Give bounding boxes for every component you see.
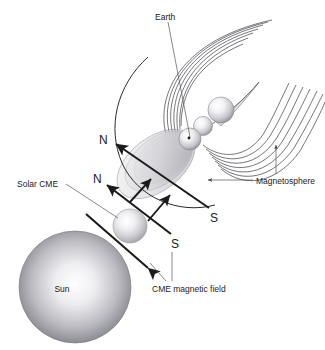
label-pole-s-lower: S bbox=[171, 237, 179, 251]
leader-cme-field-1 bbox=[150, 263, 166, 281]
northern-field-lines bbox=[164, 20, 272, 145]
label-solar-cme: Solar CME bbox=[17, 179, 58, 189]
cme-cloud-sphere bbox=[113, 209, 147, 243]
diagram-canvas: Earth Magnetosphere Solar CME CME magnet… bbox=[0, 0, 325, 350]
leader-solar-cme bbox=[66, 184, 118, 218]
cme-magnetosphere-diagram: Earth Magnetosphere Solar CME CME magnet… bbox=[0, 0, 325, 350]
leader-earth bbox=[168, 22, 190, 137]
sun-sphere bbox=[19, 231, 131, 343]
label-earth: Earth bbox=[155, 12, 176, 22]
propagation-arrow-2 bbox=[148, 195, 170, 221]
label-pole-n-lower: N bbox=[93, 172, 102, 186]
label-sun: Sun bbox=[54, 284, 69, 294]
plasmoid-outer bbox=[208, 97, 234, 123]
earth-sphere bbox=[179, 128, 201, 150]
label-cme-magnetic-field: CME magnetic field bbox=[152, 284, 226, 294]
label-magnetosphere: Magnetosphere bbox=[256, 176, 315, 186]
label-pole-n-upper: N bbox=[99, 133, 108, 147]
label-pole-s-upper: S bbox=[210, 211, 218, 225]
